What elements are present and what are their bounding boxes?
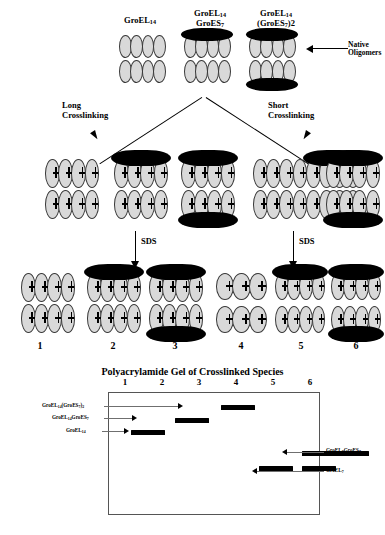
crosslink-mark xyxy=(336,198,337,209)
crosslink-mark xyxy=(68,198,69,209)
crosslink-mark xyxy=(164,198,165,209)
crosslinked-complex-long-groel14-groes7 xyxy=(113,158,169,220)
subunit-ring-top xyxy=(252,158,308,189)
crosslink-mark xyxy=(110,312,111,323)
crosslink-mark xyxy=(363,167,364,178)
crosslink-mark xyxy=(82,167,83,178)
crosslink-mark xyxy=(316,167,317,178)
crosslink-mark xyxy=(303,167,304,178)
crosslinked-complex-long-groel14-groes72 xyxy=(180,158,236,220)
band-lane3-groel14groes72 xyxy=(221,405,255,410)
schematic-lane-number-1: 1 xyxy=(30,340,50,351)
crosslink-mark xyxy=(186,281,187,292)
crosslink-mark xyxy=(365,281,366,291)
schematic-lane-number-4: 4 xyxy=(231,340,251,351)
crosslink-mark xyxy=(58,281,59,292)
subunit-ring-bot xyxy=(86,303,142,334)
crosslink-mark xyxy=(284,314,285,324)
crosslink-mark xyxy=(365,314,366,324)
crosslink-mark xyxy=(159,281,160,292)
subunit-ring-bot xyxy=(215,305,267,334)
subunit-ring-bot xyxy=(274,305,326,334)
crosslink-mark xyxy=(55,167,56,178)
schematic-lane-number-5: 5 xyxy=(291,340,311,351)
crosslink-mark xyxy=(309,314,310,324)
crosslink-mark xyxy=(137,167,138,178)
branch-long-line2: Crosslinking xyxy=(62,110,108,120)
native-label-line2: Oligomers xyxy=(348,48,381,57)
gel-leader-groel14 xyxy=(102,431,126,432)
crosslink-mark xyxy=(261,281,262,291)
schematic-lane-number-2: 2 xyxy=(103,340,123,351)
branch-label-short: Short Crosslinking xyxy=(268,101,314,121)
crosslink-mark xyxy=(124,198,125,209)
crosslink-mark xyxy=(229,281,230,291)
groes-cap-top xyxy=(323,150,383,166)
crosslink-mark xyxy=(95,167,96,178)
crosslink-mark xyxy=(218,167,219,178)
crosslink-mark xyxy=(95,198,96,209)
groes-cap-top xyxy=(84,264,144,280)
crosslink-mark xyxy=(110,281,111,292)
gel-left-label-groel14-groes72: GroEL14(GroES7)2 xyxy=(42,403,84,410)
schematic-lane-number-6: 6 xyxy=(346,340,366,351)
complex-label-groel14-groes72-l1: GroEL14 xyxy=(260,8,292,18)
crosslink-mark xyxy=(204,167,205,178)
crosslink-mark xyxy=(71,281,72,292)
native-oligomers-label: Native Oligomers xyxy=(348,41,384,57)
gel-leader-groel14-groes72 xyxy=(104,406,180,407)
crosslinked-complex-long-groel14 xyxy=(44,158,100,220)
crosslink-mark xyxy=(159,312,160,323)
crosslink-mark xyxy=(297,314,298,324)
gel-left-label-groel14-groes7: GroEL14GroES7 xyxy=(52,415,89,422)
gel-leader-arrow-groel7 xyxy=(252,468,257,474)
crosslink-mark xyxy=(191,198,192,209)
crosslink-mark xyxy=(263,198,264,209)
crosslink-mark xyxy=(349,198,350,209)
native-complex-groel14-groes7-2 xyxy=(248,34,296,84)
crosslink-mark xyxy=(290,198,291,209)
crosslink-mark xyxy=(336,167,337,178)
branch-short-line2: Crosslinking xyxy=(268,110,314,120)
crosslink-mark xyxy=(353,314,354,324)
groes-cap-top xyxy=(181,28,233,41)
sds-label-right: SDS xyxy=(299,236,315,246)
crosslink-mark xyxy=(340,314,341,324)
gel-lane-number-4: 4 xyxy=(229,377,243,387)
subunit-ring-top xyxy=(215,272,267,301)
gel-box xyxy=(108,392,320,515)
crosslink-mark xyxy=(97,312,98,323)
gel-lane-number-2: 2 xyxy=(155,377,169,387)
complex-label-groel14-groes7-2: GroEL14 (GroES7)2 xyxy=(242,9,310,29)
gel-leader-arrow-groel14-groes7 xyxy=(132,415,137,421)
crosslink-mark xyxy=(31,281,32,292)
gel-leader-groel7 xyxy=(256,471,324,472)
crosslink-mark xyxy=(31,312,32,323)
gel-title: Polyacrylamide Gel of Crosslinked Specie… xyxy=(0,366,385,377)
crosslink-mark xyxy=(151,198,152,209)
crosslink-mark xyxy=(151,167,152,178)
crosslink-mark xyxy=(245,314,246,324)
schematic-lane-number-3: 3 xyxy=(165,340,185,351)
branch-arrow-long-head xyxy=(90,130,100,141)
crosslink-mark xyxy=(186,312,187,323)
gel-leader-arrow-groel14-groes72 xyxy=(178,403,183,409)
groes-cap-top xyxy=(178,150,238,166)
crosslink-mark xyxy=(276,198,277,209)
gel-lane-number-6: 6 xyxy=(303,377,317,387)
crosslink-mark xyxy=(124,281,125,292)
subunit-ring-top xyxy=(118,34,166,59)
native-complex-groel14 xyxy=(118,34,166,84)
groes-cap-bottom xyxy=(246,78,298,91)
gel-right-label-groel7-groes7: GroEL7GroES7 xyxy=(326,448,361,455)
crosslink-mark xyxy=(377,314,378,324)
crosslink-mark xyxy=(353,281,354,291)
crosslink-mark xyxy=(376,198,377,209)
complex-label-groel14-groes7-l1: GroEL14 xyxy=(194,8,226,18)
crosslink-mark xyxy=(124,167,125,178)
complex-label-groel14: GroEL14 xyxy=(112,16,168,26)
crosslink-mark xyxy=(44,281,45,292)
subunit-ring-bot xyxy=(183,59,231,84)
crosslink-mark xyxy=(276,167,277,178)
crosslink-mark xyxy=(164,167,165,178)
